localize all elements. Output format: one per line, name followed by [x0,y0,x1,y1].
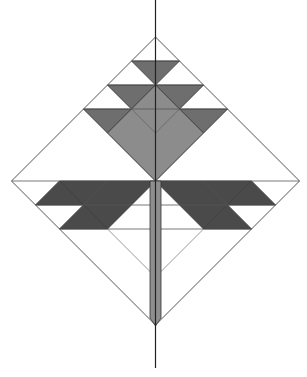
diagonal-guide [108,229,156,277]
diagonal-guide [156,229,204,277]
diagram-canvas: Geometric quilt-block tree pattern insid… [0,0,307,377]
quilt-diagram [0,0,307,377]
